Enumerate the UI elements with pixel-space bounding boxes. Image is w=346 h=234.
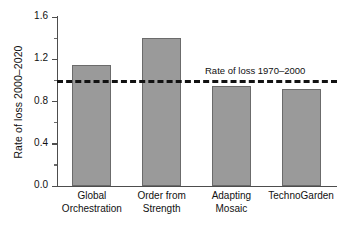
x-axis-label: Order fromStrength [127, 190, 197, 215]
y-tick-label: 0.4 [24, 138, 48, 148]
x-axis-label-line2: Mosaic [197, 203, 267, 216]
reference-line [57, 80, 337, 83]
reference-line-label: Rate of loss 1970–2000 [205, 66, 305, 76]
x-axis-label-line1: TechnoGarden [266, 190, 336, 203]
x-axis-label: TechnoGarden [266, 190, 336, 203]
y-tick-label: 1.2 [24, 53, 48, 63]
y-tick-label: 0.8 [24, 96, 48, 106]
x-axis-label-line2: Strength [127, 203, 197, 216]
y-axis-title: Rate of loss 2000–2020 [12, 22, 24, 182]
x-axis-label-line1: Adapting [197, 190, 267, 203]
y-tick-label: 0.0 [24, 180, 48, 190]
bar [142, 38, 181, 186]
y-tick-label: 1.6 [24, 11, 48, 21]
bars-group [57, 17, 336, 186]
x-axis-label: AdaptingMosaic [197, 190, 267, 215]
x-axis-label-line1: Global [57, 190, 127, 203]
bar-chart: Rate of loss 2000–2020 0.00.40.81.21.6 R… [0, 0, 346, 234]
x-axis-category-labels: GlobalOrchestrationOrder fromStrengthAda… [57, 190, 336, 234]
bar [212, 86, 251, 186]
bar [282, 89, 321, 186]
x-axis-label-line1: Order from [127, 190, 197, 203]
x-axis-label-line2: Orchestration [57, 203, 127, 216]
x-axis-line [56, 186, 337, 187]
x-axis-label: GlobalOrchestration [57, 190, 127, 215]
